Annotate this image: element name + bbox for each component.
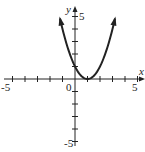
y-axis-label: y	[65, 3, 71, 15]
x-axis-arrow-icon	[139, 77, 145, 82]
x-min-label: -5	[1, 81, 11, 93]
parabola-curve	[60, 19, 115, 80]
y-axis-arrow-icon	[73, 6, 78, 12]
x-axis-label: x	[138, 65, 144, 77]
x-max-label: 5	[132, 81, 138, 93]
coordinate-plane: y x 5 -5 -5 5 0	[0, 0, 145, 152]
y-max-label: 5	[79, 10, 85, 22]
origin-label: 0	[66, 81, 72, 93]
y-min-label: -5	[64, 137, 74, 149]
curve-arrow-left-icon	[59, 17, 65, 26]
curve-arrow-right-icon	[111, 17, 117, 26]
